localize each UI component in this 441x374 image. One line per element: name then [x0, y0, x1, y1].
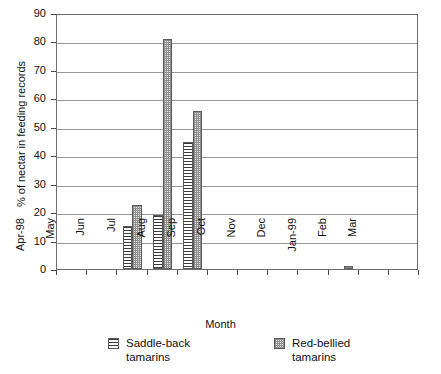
gridline-80 — [57, 43, 417, 44]
gridline-20 — [57, 214, 417, 215]
legend-label-saddle-back-line1: Saddle-back — [126, 337, 190, 349]
bar-aug-saddle-back — [183, 142, 193, 269]
y-tick-label-30: 30 — [12, 179, 46, 190]
legend-label-saddle-back: Saddle-back tamarins — [126, 336, 190, 364]
x-tick-mark-6 — [237, 270, 238, 275]
nectar-feeding-bar-chart: % of nectar in feeding records 908070605… — [0, 0, 441, 374]
x-tick-label-jun: Jun — [75, 218, 86, 278]
chart-legend: Saddle-back tamarins Red-bellied tamarin… — [56, 336, 431, 370]
y-tick-label-90: 90 — [12, 8, 46, 19]
x-tick-label-nov: Nov — [226, 218, 237, 278]
x-tick-label-oct: Oct — [196, 218, 207, 278]
gridline-40 — [57, 157, 417, 158]
legend-label-red-bellied-line2: tamarins — [292, 351, 336, 363]
legend-item-red-bellied: Red-bellied tamarins — [274, 336, 350, 364]
x-tick-label-mar: Mar — [347, 218, 358, 278]
x-tick-label-jul: Jul — [106, 218, 117, 278]
legend-label-red-bellied-line1: Red-bellied — [292, 337, 350, 349]
gridline-50 — [57, 129, 417, 130]
y-tick-label-70: 70 — [12, 65, 46, 76]
legend-label-red-bellied: Red-bellied tamarins — [292, 336, 350, 364]
bar-jul-saddle-back — [153, 215, 163, 269]
legend-label-saddle-back-line2: tamarins — [126, 351, 170, 363]
x-axis-title: Month — [0, 318, 441, 330]
x-tick-label-feb: Feb — [317, 218, 328, 278]
legend-swatch-saddle-back-icon — [108, 338, 119, 349]
y-tick-label-40: 40 — [12, 150, 46, 161]
y-tick-label-50: 50 — [12, 122, 46, 133]
y-tick-label-80: 80 — [12, 36, 46, 47]
x-tick-mark-1 — [86, 270, 87, 275]
legend-item-saddle-back: Saddle-back tamarins — [108, 336, 190, 364]
bar-jun-saddle-back — [123, 226, 133, 269]
x-tick-mark-12 — [418, 270, 419, 275]
x-tick-label-jan-99: Jan-99 — [287, 218, 298, 278]
gridline-30 — [57, 186, 417, 187]
x-tick-mark-7 — [267, 270, 268, 275]
y-tick-label-20: 20 — [12, 207, 46, 218]
gridline-70 — [57, 72, 417, 73]
x-tick-label-sep: Sep — [166, 218, 177, 278]
x-tick-label-may: May — [45, 218, 56, 278]
x-tick-label-aug: Aug — [136, 218, 147, 278]
x-tick-label-apr-98: Apr-98 — [15, 218, 26, 278]
x-tick-mark-11 — [388, 270, 389, 275]
y-tick-label-60: 60 — [12, 93, 46, 104]
x-tick-label-dec: Dec — [256, 218, 267, 278]
x-tick-mark-0 — [56, 270, 57, 275]
gridline-60 — [57, 100, 417, 101]
legend-swatch-red-bellied-icon — [274, 338, 285, 349]
